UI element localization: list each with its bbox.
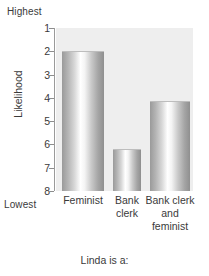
y-axis-line: [54, 28, 55, 191]
y-tick-mark: [49, 75, 54, 76]
y-tick-label: 2: [36, 46, 50, 57]
x-category-label-line: and: [139, 207, 201, 220]
y-tick-mark: [49, 51, 54, 52]
y-tick-label: 7: [36, 162, 50, 173]
y-tick-mark: [49, 144, 54, 145]
y-tick-mark: [49, 191, 54, 192]
y-tick-mark: [49, 28, 54, 29]
bar: [62, 51, 104, 191]
x-axis-title: Linda is a:: [0, 254, 209, 266]
x-category-label-line: Feminist: [52, 194, 114, 207]
x-category-label-line: feminist: [139, 220, 201, 233]
x-category-label-line: Bank clerk: [139, 194, 201, 207]
plot-area: [56, 28, 193, 191]
y-tick-label: 1: [36, 23, 50, 34]
axis-annotation-lowest: Lowest: [4, 199, 36, 210]
y-tick-label: 5: [36, 116, 50, 127]
x-category-label: Feminist: [52, 194, 114, 207]
bar: [150, 101, 190, 191]
bar: [113, 149, 141, 191]
y-tick-label: 4: [36, 93, 50, 104]
y-tick-label: 3: [36, 69, 50, 80]
y-tick-mark: [49, 168, 54, 169]
y-tick-mark: [49, 98, 54, 99]
likelihood-bar-chart: Highest Lowest Likelihood 12345678 Femin…: [0, 0, 209, 276]
x-category-label: Bank clerkandfeminist: [139, 194, 201, 233]
y-tick-mark: [49, 121, 54, 122]
y-tick-label: 8: [36, 186, 50, 197]
y-tick-label: 6: [36, 139, 50, 150]
y-axis-title: Likelihood: [12, 44, 24, 144]
y-axis-tick-labels: 12345678: [34, 0, 50, 276]
x-axis-category-labels: FeministBankclerkBank clerkandfeminist: [56, 194, 206, 252]
